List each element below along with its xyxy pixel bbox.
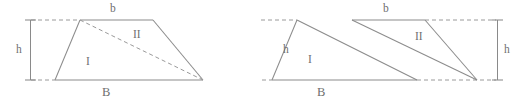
right-label-height-h-left: h (283, 44, 289, 56)
left-left-leg (55, 20, 80, 80)
left-label-top-side-b: b (110, 3, 116, 15)
right-label-region-II: II (415, 31, 423, 43)
left-label-height-h: h (16, 44, 22, 56)
left-right-leg (153, 20, 203, 80)
left-diagonal-dash (80, 20, 203, 80)
left-label-region-I: I (86, 56, 90, 68)
right-label-bottom-side-B: B (317, 86, 325, 99)
left-label-bottom-side-B: B (102, 86, 110, 99)
left-label-region-II: II (133, 29, 141, 41)
right-panel-group (261, 20, 503, 80)
right-divider-two (352, 20, 477, 80)
right-right-leg (425, 20, 477, 80)
right-label-top-side-b: b (383, 3, 389, 15)
right-divider-one (297, 20, 417, 80)
right-label-region-I: I (308, 54, 312, 66)
right-label-height-h-right: h (504, 44, 510, 56)
geometry-figure: b B h I II b B h h I II (0, 0, 514, 109)
figure-canvas (0, 0, 514, 109)
left-panel-group (25, 20, 203, 80)
